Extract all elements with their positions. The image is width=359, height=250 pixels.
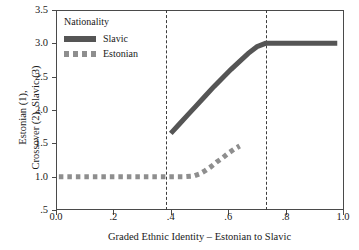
reference-line-vertical — [266, 10, 267, 210]
x-tick-label: 1.0 — [323, 212, 359, 223]
x-tick-label: .6 — [208, 212, 248, 223]
y-axis-label-line1: Estonian (1), — [17, 23, 30, 213]
x-tick-label: .8 — [266, 212, 306, 223]
legend: Nationality Slavic Estonian — [64, 16, 184, 62]
y-axis-label-line2: Crossover (2), Slavic (3) — [29, 23, 42, 213]
plot-frame-top — [56, 10, 343, 11]
legend-item-slavic: Slavic — [64, 32, 184, 45]
y-tick-mark — [52, 10, 57, 11]
x-tick-label: 0.0 — [36, 212, 76, 223]
y-tick-mark — [52, 43, 57, 44]
y-tick-mark — [52, 177, 57, 178]
y-tick-mark — [52, 143, 57, 144]
legend-title: Nationality — [64, 16, 184, 27]
chart-container: 3.53.02.52.01.51.0.5 0.0.2.4.6.81.0 Esto… — [0, 0, 359, 250]
y-axis-label: Estonian (1), Crossover (2), Slavic (3) — [17, 23, 42, 213]
x-tick-label: .2 — [93, 212, 133, 223]
legend-item-estonian: Estonian — [64, 47, 184, 60]
legend-label-estonian: Estonian — [103, 48, 138, 59]
x-tick-label: .4 — [151, 212, 191, 223]
y-tick-mark — [52, 110, 57, 111]
legend-swatch-estonian — [64, 51, 96, 57]
legend-swatch-slavic — [64, 36, 96, 42]
plot-frame-right — [343, 10, 344, 210]
y-tick-label: 3.5 — [22, 5, 48, 16]
x-axis-label: Graded Ethnic Identity – Estonian to Sla… — [56, 231, 343, 242]
legend-label-slavic: Slavic — [103, 33, 128, 44]
y-tick-mark — [52, 77, 57, 78]
